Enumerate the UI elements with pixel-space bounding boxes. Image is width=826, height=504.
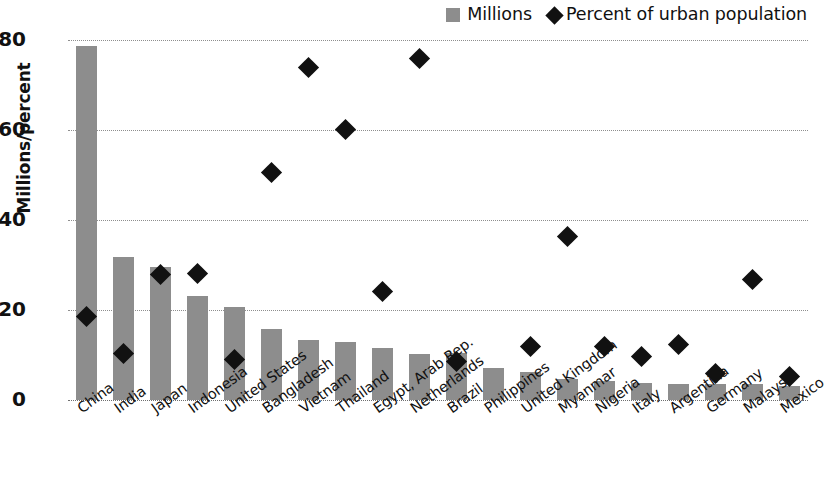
legend-label-millions: Millions bbox=[467, 6, 532, 24]
bar bbox=[76, 46, 97, 400]
y-axis-tick-label: 60 bbox=[0, 119, 26, 139]
data-point-marker bbox=[557, 226, 578, 247]
data-point-marker bbox=[335, 118, 356, 139]
data-point-marker bbox=[631, 346, 652, 367]
gridline bbox=[68, 40, 808, 41]
gridline bbox=[68, 130, 808, 131]
data-point-marker bbox=[409, 48, 430, 69]
plot-area: 020406080 bbox=[68, 40, 808, 400]
y-axis-tick-label: 0 bbox=[0, 389, 26, 409]
bar bbox=[150, 267, 171, 400]
y-axis-tick-label: 40 bbox=[0, 209, 26, 229]
data-point-marker bbox=[668, 334, 689, 355]
legend-square-icon bbox=[446, 8, 460, 22]
legend-entry-percent-urban-population: Percent of urban population bbox=[546, 6, 807, 24]
data-point-marker bbox=[298, 56, 319, 77]
legend-label-percent-urban-population: Percent of urban population bbox=[566, 6, 807, 24]
data-point-marker bbox=[520, 336, 541, 357]
y-axis-tick-label: 80 bbox=[0, 29, 26, 49]
legend-entry-millions: Millions bbox=[446, 6, 532, 24]
y-axis-tick-label: 20 bbox=[0, 299, 26, 319]
legend-diamond-icon bbox=[545, 6, 563, 24]
data-point-marker bbox=[187, 262, 208, 283]
bar bbox=[187, 296, 208, 400]
data-point-marker bbox=[261, 162, 282, 183]
bar bbox=[113, 257, 134, 400]
chart-legend: Millions Percent of urban population bbox=[0, 2, 813, 28]
gridline bbox=[68, 310, 808, 311]
data-point-marker bbox=[372, 280, 393, 301]
gridline bbox=[68, 220, 808, 221]
data-point-marker bbox=[742, 269, 763, 290]
